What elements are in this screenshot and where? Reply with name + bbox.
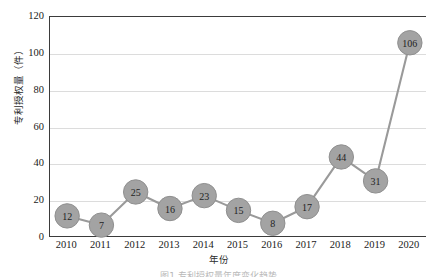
y-axis-tick-labels: 020406080100120 (14, 0, 44, 277)
data-point-markers: 127251623158174431106 (55, 31, 422, 238)
line-series-svg: 127251623158174431106 (50, 17, 427, 238)
data-point-label: 12 (62, 211, 72, 222)
figure-caption: 图1 专利授权量年度变化趋势 (0, 270, 437, 277)
data-point-label: 23 (199, 191, 209, 202)
data-point-label: 31 (371, 176, 381, 187)
data-point-label: 7 (99, 220, 104, 231)
y-axis-tick-label: 0 (16, 232, 44, 242)
data-point-label: 25 (131, 187, 141, 198)
x-axis-tick-labels: 2010201120122013201420152016201720182019… (49, 239, 426, 253)
data-point-label: 8 (270, 218, 275, 229)
x-axis-tick-label: 2020 (389, 239, 429, 251)
y-axis-tick-label: 40 (16, 158, 44, 168)
data-point-label: 17 (302, 202, 312, 213)
y-axis-tick-label: 100 (16, 48, 44, 58)
data-point-label: 16 (165, 204, 175, 215)
y-axis-tick-label: 60 (16, 122, 44, 132)
y-axis-tick-label: 20 (16, 195, 44, 205)
data-point-label: 44 (336, 152, 346, 163)
data-point-label: 15 (234, 205, 244, 216)
x-axis-title: 年份 (0, 254, 437, 266)
data-point-label: 106 (402, 38, 417, 49)
y-axis-tick-label: 80 (16, 85, 44, 95)
y-axis-tick-label: 120 (16, 11, 44, 21)
plot-area: 127251623158174431106 (49, 16, 426, 237)
chart-figure: 专利授权量（件） 020406080100120 127251623158174… (0, 0, 437, 277)
